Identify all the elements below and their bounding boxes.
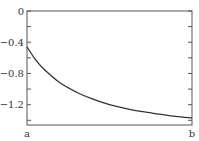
y-tick-label: 0 xyxy=(18,6,24,17)
x-tick-label: b xyxy=(189,128,195,139)
y-tick-label: −0.8 xyxy=(0,68,24,79)
plot-border xyxy=(27,11,192,125)
plot-frame xyxy=(27,11,192,125)
y-tick-label: −0.4 xyxy=(0,37,24,48)
y-tick-label: −1.2 xyxy=(0,99,24,110)
x-tick-label: a xyxy=(24,128,30,139)
data-line xyxy=(27,47,192,118)
y-axis-ticks xyxy=(27,11,192,120)
line-chart: 0−0.4−0.8−1.2 ab xyxy=(0,0,199,141)
x-axis-tick-labels: ab xyxy=(24,128,195,139)
y-axis-tick-labels: 0−0.4−0.8−1.2 xyxy=(0,6,24,111)
